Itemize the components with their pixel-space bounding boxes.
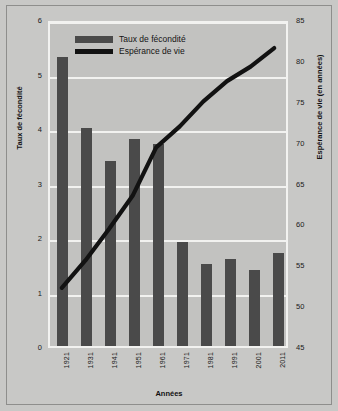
line-series [50, 23, 286, 346]
y-axis-left-title: Taux de fécondité [15, 140, 24, 150]
y-tick-left: 3 [2, 181, 42, 189]
y-tick-right: 65 [296, 181, 336, 189]
legend-item-fertility: Taux de fécondité [75, 33, 186, 45]
line-swatch-icon [75, 49, 113, 54]
y-tick-right: 45 [296, 344, 336, 352]
x-tick: 1941 [111, 352, 118, 368]
y-tick-right: 50 [296, 303, 336, 311]
y-tick-left: 2 [2, 235, 42, 243]
x-tick: 1921 [63, 352, 70, 368]
y-tick-left: 5 [2, 72, 42, 80]
x-tick: 1981 [207, 352, 214, 368]
x-tick: 1961 [159, 352, 166, 368]
y-axis-right-title: Espérance de vie (en années) [315, 150, 324, 160]
x-tick: 2011 [279, 352, 286, 368]
plot-area [48, 21, 288, 348]
x-tick: 1931 [87, 352, 94, 368]
legend-item-life-expectancy: Espérance de vie [75, 45, 186, 57]
y-tick-left: 1 [2, 290, 42, 298]
y-tick-right: 55 [296, 262, 336, 270]
y-tick-left: 4 [2, 126, 42, 134]
y-tick-right: 85 [296, 17, 336, 25]
legend-label-fertility: Taux de fécondité [119, 34, 186, 44]
legend: Taux de fécondité Espérance de vie [75, 33, 186, 57]
bar-swatch-icon [75, 36, 113, 43]
y-tick-right: 60 [296, 221, 336, 229]
y-tick-right: 75 [296, 99, 336, 107]
y-tick-left: 6 [2, 17, 42, 25]
x-tick: 2001 [255, 352, 262, 368]
y-tick-right: 70 [296, 140, 336, 148]
y-tick-right: 80 [296, 58, 336, 66]
x-tick: 1991 [231, 352, 238, 368]
x-tick: 1971 [183, 352, 190, 368]
x-tick: 1951 [135, 352, 142, 368]
y-tick-left: 0 [2, 344, 42, 352]
x-axis-title: Années [0, 389, 338, 398]
legend-label-life-expectancy: Espérance de vie [119, 46, 185, 56]
figure-container: Taux de fécondité Espérance de vie (en a… [0, 0, 338, 411]
